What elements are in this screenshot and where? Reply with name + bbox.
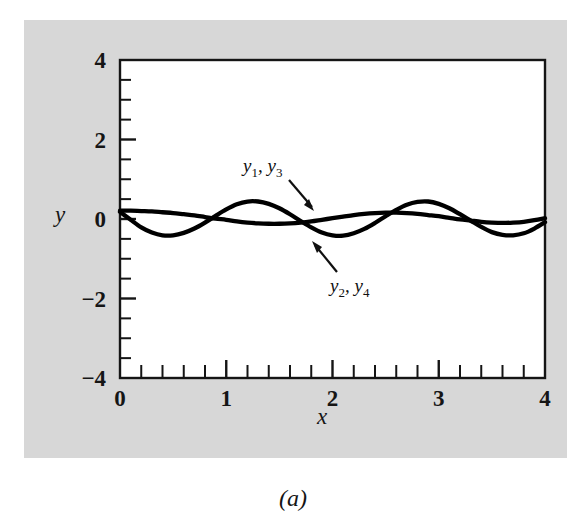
- label-y1-y3-b: y: [265, 155, 276, 176]
- plot-area: 420−2−4 01234 y x y1, y3: [0, 0, 587, 528]
- y-axis-tick-labels: 420−2−4: [81, 48, 106, 391]
- y-tick-label: 2: [95, 128, 107, 153]
- label-y2-y4-b: y: [352, 275, 363, 296]
- y-axis-label: y: [53, 202, 66, 227]
- label-y1-y3-sep: ,: [258, 155, 268, 176]
- x-tick-label: 2: [327, 386, 339, 411]
- label-y2-y4-sep: ,: [345, 275, 355, 296]
- label-y2-y4-a: y: [328, 275, 339, 296]
- x-tick-label: 3: [433, 386, 445, 411]
- y-tick-label: −2: [81, 287, 106, 312]
- x-tick-label: 1: [221, 386, 233, 411]
- figure-panel: 420−2−4 01234 y x y1, y3: [0, 0, 587, 528]
- y-tick-label: 4: [95, 48, 107, 73]
- label-y1-y3-a: y: [241, 155, 252, 176]
- figure-caption: (a): [279, 485, 307, 511]
- label-y1-y3-sub-b: 3: [276, 165, 283, 180]
- x-axis-label: x: [316, 404, 328, 429]
- x-tick-label: 4: [539, 386, 551, 411]
- plot-svg: 420−2−4 01234 y x y1, y3: [0, 0, 587, 528]
- x-axis-tick-labels: 01234: [114, 386, 551, 411]
- label-y2-y4-sub-b: 4: [363, 285, 370, 300]
- x-tick-label: 0: [114, 386, 126, 411]
- y-tick-label: 0: [95, 207, 107, 232]
- y-tick-label: −4: [81, 366, 106, 391]
